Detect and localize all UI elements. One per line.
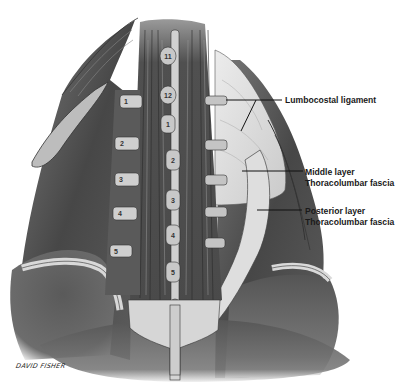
svg-text:4: 4 — [171, 232, 175, 239]
vertebra-t12: 12 — [160, 86, 176, 104]
left-transverse-1: 1 — [120, 95, 142, 108]
label-lumbocostal-ligament: Lumbocostal ligament — [285, 95, 376, 106]
label-text: Lumbocostal ligament — [285, 95, 376, 105]
artist-signature: DAVID FISHER — [15, 362, 66, 370]
svg-text:3: 3 — [171, 197, 175, 204]
svg-text:2: 2 — [120, 140, 124, 147]
left-transverse-5: 5 — [110, 245, 132, 257]
svg-text:1: 1 — [166, 121, 170, 128]
vertebra-l2: 2 — [166, 150, 180, 170]
anatomy-illustration: 11 12 1 2 3 4 5 1 2 3 4 5 — [0, 0, 407, 386]
svg-text:12: 12 — [164, 92, 172, 99]
left-transverse-4: 4 — [113, 207, 137, 220]
svg-text:2: 2 — [171, 157, 175, 164]
label-line1: Middle layer — [305, 167, 394, 178]
vertebra-l4: 4 — [166, 225, 180, 245]
vertebra-l5: 5 — [166, 262, 180, 282]
svg-text:1: 1 — [124, 98, 128, 105]
vertebra-l1: 1 — [161, 115, 175, 133]
left-transverse-3: 3 — [115, 173, 139, 186]
svg-text:5: 5 — [171, 269, 175, 276]
vertebra-l3: 3 — [166, 190, 180, 210]
label-line2: Thoracolumbar fascia — [305, 178, 394, 189]
label-line1: Posterior layer — [305, 206, 394, 217]
svg-text:11: 11 — [164, 53, 172, 60]
svg-text:4: 4 — [118, 210, 122, 217]
left-transverse-2: 2 — [115, 137, 139, 150]
label-middle-layer: Middle layer Thoracolumbar fascia — [305, 167, 394, 188]
svg-text:5: 5 — [114, 248, 118, 255]
label-line2: Thoracolumbar fascia — [305, 217, 394, 228]
svg-text:3: 3 — [119, 176, 123, 183]
label-posterior-layer: Posterior layer Thoracolumbar fascia — [305, 206, 394, 227]
vertebra-t11: 11 — [160, 47, 176, 65]
